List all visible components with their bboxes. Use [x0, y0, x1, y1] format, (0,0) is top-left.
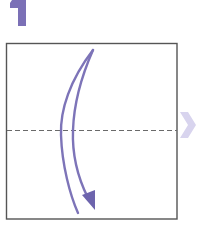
step-number-glyph [10, 0, 26, 26]
chevron-right-icon [180, 112, 196, 138]
origami-step-diagram [0, 0, 198, 226]
step-number [10, 0, 26, 26]
